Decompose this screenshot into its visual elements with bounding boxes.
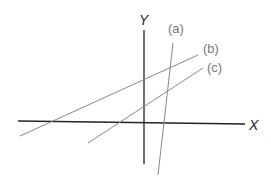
line-c-label: (c) (207, 60, 222, 75)
line-a (158, 43, 173, 175)
line-a-label: (a) (168, 21, 184, 36)
line-b (20, 55, 198, 136)
y-axis-label: Y (139, 12, 150, 28)
diagram-canvas: Y X (a) (b) (c) (0, 0, 271, 183)
x-axis-label: X (248, 117, 259, 133)
line-b-label: (b) (203, 41, 219, 56)
